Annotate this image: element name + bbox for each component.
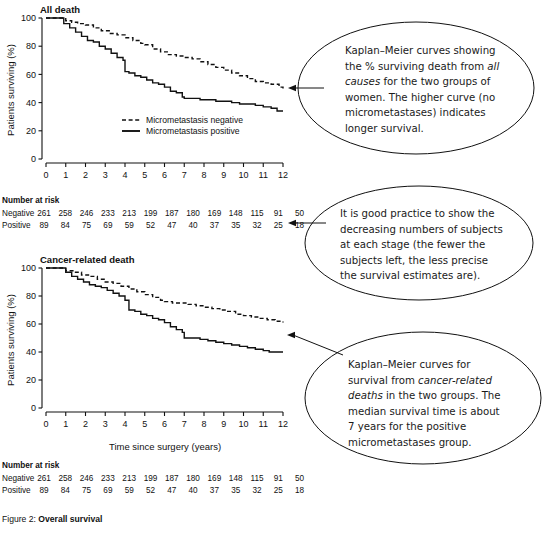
risk-value: 40 xyxy=(189,486,199,495)
x-tick-label: 11 xyxy=(259,170,268,180)
legend-label: Micrometastasis positive xyxy=(146,126,240,136)
callout-arrowhead xyxy=(287,332,295,338)
risk-value: 50 xyxy=(295,474,305,483)
callout-line: the % surviving death from all xyxy=(345,61,499,72)
risk-value: 47 xyxy=(167,486,177,495)
y-tick-label: 100 xyxy=(21,263,36,273)
risk-value: 246 xyxy=(80,474,94,483)
risk-row-label: Positive xyxy=(2,221,31,230)
risk-value: 59 xyxy=(125,221,135,230)
curve-positive xyxy=(46,268,283,352)
risk-value: 187 xyxy=(165,474,179,483)
callout-line: It is good practice to show the xyxy=(340,208,494,219)
risk-value: 115 xyxy=(250,474,263,483)
curve-positive xyxy=(46,18,283,111)
risk-value: 258 xyxy=(58,474,72,483)
x-tick-label: 0 xyxy=(43,170,48,180)
risk-value: 32 xyxy=(252,486,262,495)
x-tick-label: 11 xyxy=(259,419,268,429)
x-tick-label: 1 xyxy=(63,170,68,180)
risk-value: 37 xyxy=(210,486,220,495)
x-tick-label: 7 xyxy=(182,419,187,429)
y-tick-label: 60 xyxy=(26,319,36,329)
risk-value: 18 xyxy=(295,221,305,230)
callout-line: at each stage (the fewer the xyxy=(340,239,485,250)
y-tick-label: 80 xyxy=(26,41,36,51)
risk-value: 40 xyxy=(189,221,199,230)
callout-all-death: Kaplan–Meier curves showingthe % survivi… xyxy=(288,22,534,154)
x-tick-label: 5 xyxy=(142,170,147,180)
callout-line: women. The higher curve (no xyxy=(345,92,495,103)
curve-negative xyxy=(46,18,283,89)
x-tick-label: 1 xyxy=(63,419,68,429)
risk-value: 47 xyxy=(167,221,177,230)
callout-line: median survival time is about xyxy=(348,406,500,417)
risk-value: 84 xyxy=(61,221,71,230)
callout-line: causes for the two groups of xyxy=(345,76,491,87)
risk-value: 89 xyxy=(39,486,49,495)
risk-value: 52 xyxy=(146,221,156,230)
risk-value: 18 xyxy=(295,486,305,495)
callout-line: deaths in the two groups. The xyxy=(348,390,501,401)
callout-line: Kaplan–Meier curves for xyxy=(348,359,471,370)
risk-value: 115 xyxy=(250,209,263,218)
risk-value: 246 xyxy=(80,209,94,218)
risk-value: 91 xyxy=(274,209,284,218)
panel-title: Cancer-related death xyxy=(40,254,135,265)
risk-table-heading: Number at risk xyxy=(2,461,60,470)
x-tick-label: 4 xyxy=(122,170,127,180)
x-tick-label: 8 xyxy=(201,170,206,180)
risk-value: 75 xyxy=(82,221,92,230)
x-tick-label: 9 xyxy=(221,419,226,429)
legend-label: Micrometastasis negative xyxy=(146,115,243,125)
risk-value: 50 xyxy=(295,209,305,218)
y-axis-label: Patients surviving (%) xyxy=(5,44,16,136)
risk-value: 180 xyxy=(186,474,200,483)
risk-value: 91 xyxy=(274,474,284,483)
curve-negative xyxy=(46,268,283,323)
risk-value: 233 xyxy=(101,474,115,483)
x-tick-label: 3 xyxy=(103,170,108,180)
risk-value: 32 xyxy=(252,221,262,230)
risk-value: 148 xyxy=(229,209,243,218)
overall-survival-figure: All death020406080100Patients surviving … xyxy=(0,0,558,534)
risk-value: 169 xyxy=(208,474,222,483)
risk-value: 37 xyxy=(210,221,220,230)
risk-value: 75 xyxy=(82,486,92,495)
risk-value: 89 xyxy=(39,221,49,230)
y-tick-label: 40 xyxy=(26,347,36,357)
figure-caption-text: Figure 2: Overall survival xyxy=(2,514,102,524)
x-tick-label: 0 xyxy=(43,419,48,429)
x-tick-label: 6 xyxy=(162,419,167,429)
risk-value: 148 xyxy=(229,474,243,483)
risk-value: 213 xyxy=(122,474,136,483)
y-tick-label: 0 xyxy=(31,403,36,413)
risk-value: 261 xyxy=(37,209,51,218)
x-tick-label: 6 xyxy=(162,170,167,180)
risk-value: 59 xyxy=(125,486,135,495)
risk-value: 35 xyxy=(231,486,241,495)
x-tick-label: 12 xyxy=(278,419,288,429)
callout-line: subjects left, the less precise xyxy=(340,255,488,266)
risk-value: 187 xyxy=(165,209,179,218)
x-tick-label: 2 xyxy=(83,419,88,429)
risk-value: 199 xyxy=(144,209,158,218)
callout-risk-table: It is good practice to show thedecreasin… xyxy=(288,186,533,300)
risk-value: 35 xyxy=(231,221,241,230)
callout-line: micrometastases group. xyxy=(348,437,471,448)
callout-leader-line xyxy=(293,335,343,355)
risk-value: 233 xyxy=(101,209,115,218)
risk-value: 258 xyxy=(58,209,72,218)
y-axis-label: Patients surviving (%) xyxy=(5,294,16,386)
risk-value: 261 xyxy=(37,474,51,483)
callout-line: the survival estimates are). xyxy=(340,270,480,281)
callout-cancer-death: Kaplan–Meier curves forsurvival from can… xyxy=(287,332,541,464)
risk-value: 69 xyxy=(103,486,113,495)
x-tick-label: 12 xyxy=(278,170,288,180)
risk-value: 213 xyxy=(122,209,136,218)
risk-row-label: Negative xyxy=(2,474,35,483)
risk-value: 69 xyxy=(103,221,113,230)
risk-value: 84 xyxy=(61,486,71,495)
risk-value: 199 xyxy=(144,474,158,483)
callout-line: 7 years for the positive xyxy=(348,421,466,432)
